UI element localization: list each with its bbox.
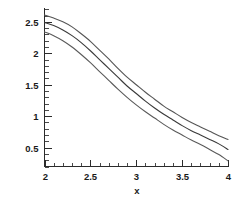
- x-tick-label: 4: [226, 171, 232, 182]
- y-tick-label: 2.5: [25, 17, 39, 28]
- x-tick-label: 2: [43, 171, 48, 182]
- minor-ticks: [45, 10, 229, 168]
- y-tick-label: 0.5: [25, 143, 39, 154]
- data-curves: [45, 15, 229, 161]
- y-tick-label: 1: [33, 111, 39, 122]
- x-tick-label: 3.5: [176, 171, 190, 182]
- x-tick-labels: 22.533.54: [43, 171, 232, 182]
- y-tick-label: 1.5: [25, 80, 39, 91]
- x-tick-label: 2.5: [84, 171, 98, 182]
- x-tick-label: 3: [134, 171, 139, 182]
- line-chart: 22.533.54 0.511.522.5 x: [0, 0, 239, 202]
- data-curve-upper: [45, 15, 229, 140]
- plot-figure: 22.533.54 0.511.522.5 x: [0, 0, 239, 202]
- data-curve-lower: [45, 32, 229, 161]
- x-axis-title: x: [134, 185, 140, 196]
- data-curve-middle: [45, 22, 229, 149]
- y-tick-labels: 0.511.522.5: [25, 17, 39, 154]
- y-tick-label: 2: [33, 48, 38, 59]
